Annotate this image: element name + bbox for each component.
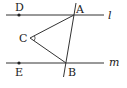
angle-mark-c (34, 36, 35, 41)
label-line-m: m (109, 56, 119, 69)
label-a: A (75, 3, 85, 16)
point-e-dot (17, 61, 20, 64)
segment-cb (30, 38, 66, 63)
label-d: D (15, 1, 24, 14)
label-e: E (15, 66, 23, 79)
label-line-l: l (108, 9, 112, 22)
label-b: B (68, 66, 76, 79)
label-c: C (19, 32, 27, 45)
segment-ca (30, 15, 74, 38)
geometry-diagram: D A C E B l m (0, 0, 127, 88)
